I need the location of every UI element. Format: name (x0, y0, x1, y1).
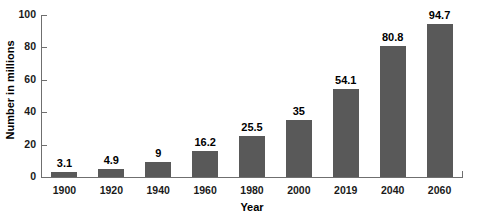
bar (145, 162, 171, 177)
bar-group: 4.9 (98, 15, 124, 177)
y-axis-tick: 100 (41, 15, 47, 16)
y-axis-tick-label: 20 (24, 138, 36, 150)
bar-value-label: 16.2 (194, 136, 215, 148)
bar (333, 89, 359, 177)
bar (380, 46, 406, 177)
bar-value-label: 80.8 (382, 31, 403, 43)
bar-group: 35 (286, 15, 312, 177)
bar-value-label: 9 (155, 147, 161, 159)
x-axis-tick-label: 1920 (88, 184, 135, 196)
y-axis-tick-mark (41, 47, 47, 48)
bar-value-label: 25.5 (241, 121, 262, 133)
x-axis-tick-label: 1960 (182, 184, 229, 196)
y-axis-tick-label: 100 (18, 8, 36, 20)
x-axis-tick-label: 2040 (369, 184, 416, 196)
x-axis-tick-label: 1980 (229, 184, 276, 196)
bar-value-label: 94.7 (429, 9, 450, 21)
bar-chart: Number in millions 020406080100 3.14.991… (0, 0, 478, 219)
bar-group: 94.7 (427, 15, 453, 177)
x-axis-tick-label: 1940 (135, 184, 182, 196)
x-axis-end-tick (462, 171, 463, 178)
bar-value-label: 4.9 (104, 154, 119, 166)
y-axis-tick-mark (41, 145, 47, 146)
bar-group: 80.8 (380, 15, 406, 177)
bar-value-label: 54.1 (335, 74, 356, 86)
y-axis-title: Number in millions (0, 0, 18, 180)
x-axis-tick-label: 2000 (275, 184, 322, 196)
y-axis-tick-label: 0 (30, 170, 36, 182)
bar (192, 151, 218, 177)
y-axis-tick-mark (41, 80, 47, 81)
y-axis-tick: 80 (41, 47, 47, 48)
bar (239, 136, 265, 177)
bar-group: 9 (145, 15, 171, 177)
y-axis-tick: 40 (41, 112, 47, 113)
y-axis-tick-mark (41, 112, 47, 113)
x-axis-title: Year (41, 201, 463, 213)
bar (51, 172, 77, 177)
bar-group: 16.2 (192, 15, 218, 177)
x-axis-line (41, 177, 463, 178)
y-axis-title-label: Number in millions (3, 40, 15, 139)
y-axis-tick: 60 (41, 80, 47, 81)
y-axis-tick-label: 40 (24, 105, 36, 117)
bar-value-label: 3.1 (57, 157, 72, 169)
bar-group: 3.1 (51, 15, 77, 177)
y-axis-tick-mark (41, 15, 47, 16)
x-axis-tick-label: 2060 (416, 184, 463, 196)
bar-value-label: 35 (293, 105, 305, 117)
plot-area: 020406080100 3.14.9916.225.53554.180.894… (41, 15, 463, 178)
bar (286, 120, 312, 177)
x-axis-tick-label: 1900 (41, 184, 88, 196)
x-axis-tick-label: 2019 (322, 184, 369, 196)
y-axis-tick-label: 60 (24, 73, 36, 85)
bar-group: 54.1 (333, 15, 359, 177)
y-axis-tick: 0 (41, 177, 47, 178)
y-axis-tick-label: 80 (24, 40, 36, 52)
bar-group: 25.5 (239, 15, 265, 177)
y-axis-tick-mark (41, 177, 47, 178)
bar (98, 169, 124, 177)
y-axis-tick: 20 (41, 145, 47, 146)
bar (427, 24, 453, 177)
y-axis-line (41, 15, 42, 178)
